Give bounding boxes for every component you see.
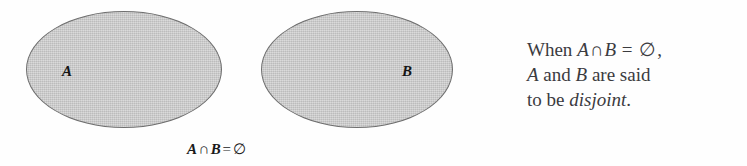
note-prefix: to be <box>527 89 564 110</box>
note-var-b: B <box>576 64 588 85</box>
note-line-2: A and B are said <box>527 62 727 87</box>
caption-intersection-empty: A∩B=∅ <box>187 140 248 158</box>
note-prefix: When <box>527 39 572 60</box>
note-conjunction: and <box>543 64 570 85</box>
note-emphasis-disjoint: disjoint <box>569 89 626 110</box>
set-label-a: A <box>62 64 72 79</box>
venn-diagram-figure: A B A∩B=∅ When A∩B = ∅, A and B are said… <box>0 0 747 166</box>
note-line-3: to be disjoint. <box>527 87 727 112</box>
equals-icon: = <box>621 39 634 60</box>
note-var-b: B <box>604 39 616 60</box>
caption-operand-b: B <box>211 141 222 157</box>
caption-operand-a: A <box>187 141 198 157</box>
set-label-b: B <box>402 64 412 79</box>
equals-icon: = <box>221 141 232 157</box>
empty-set-icon: ∅ <box>638 39 657 60</box>
explanatory-note: When A∩B = ∅, A and B are said to be dis… <box>527 37 727 112</box>
set-ellipse-a <box>26 11 222 128</box>
set-ellipse-b <box>261 11 453 128</box>
note-line-1: When A∩B = ∅, <box>527 37 727 62</box>
intersection-icon: ∩ <box>589 39 605 60</box>
intersection-icon: ∩ <box>198 141 211 157</box>
note-comma: , <box>657 39 662 60</box>
note-text: are said <box>592 64 651 85</box>
empty-set-icon: ∅ <box>232 141 248 157</box>
note-period: . <box>626 89 631 110</box>
note-var-a: A <box>577 39 589 60</box>
note-var-a: A <box>527 64 539 85</box>
